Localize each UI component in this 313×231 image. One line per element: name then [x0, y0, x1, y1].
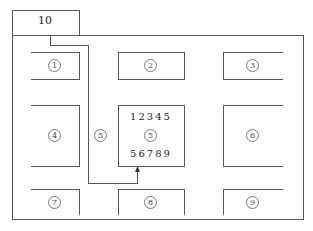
center-bottom-digits: 56789 [118, 148, 184, 159]
area-label-7: 7 [48, 196, 61, 209]
area-label-3: 3 [246, 59, 259, 72]
area-label-5-aisle: 5 [94, 129, 107, 142]
area-label-6: 6 [246, 129, 259, 142]
area-label-4: 4 [48, 129, 61, 142]
area-label-8: 8 [144, 196, 157, 209]
area-label-1: 1 [48, 59, 61, 72]
center-top-digits: 12345 [118, 111, 184, 122]
route-path [51, 36, 138, 184]
area-label-2: 2 [144, 59, 157, 72]
entrance-label: 10 [30, 15, 60, 27]
area-label-9: 9 [246, 196, 259, 209]
area-label-5-center: 5 [144, 129, 157, 142]
